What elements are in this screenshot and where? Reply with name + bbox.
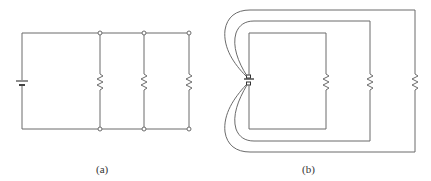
resistor-branch-1-a: [97, 35, 103, 127]
battery-icon: [16, 81, 28, 85]
circuit-a: [16, 31, 192, 131]
circuit-diagram: [0, 0, 431, 181]
resistor-branch-3-a: [186, 35, 192, 127]
inner-loop-b: [249, 33, 329, 129]
outer-loop-b: [225, 10, 418, 152]
panel-label-a: (a): [96, 163, 108, 175]
battery-icon: [244, 75, 254, 85]
middle-loop-b: [235, 21, 373, 141]
resistor-branch-2-a: [141, 35, 147, 127]
circuit-b: [225, 10, 418, 152]
panel-label-b: (b): [302, 163, 315, 175]
